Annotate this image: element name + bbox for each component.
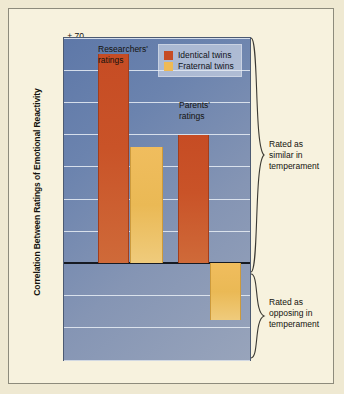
- category-label-parents-line2: ratings: [179, 111, 210, 122]
- legend-item-identical: Identical twins: [164, 50, 234, 60]
- gridline: [64, 360, 250, 361]
- annotation-similar-line1: Rated as: [269, 139, 319, 150]
- plot-area: Researchers' ratings Parents' ratings Id…: [63, 37, 251, 361]
- legend-label-identical: Identical twins: [178, 50, 231, 60]
- brace-opposing-icon: [250, 273, 266, 359]
- annotation-opposing-line2: opposing in: [269, 308, 319, 319]
- annotation-opposing-line1: Rated as: [269, 297, 319, 308]
- category-label-parents: Parents' ratings: [179, 100, 210, 122]
- annotation-similar-line3: temperament: [269, 161, 319, 172]
- annotation-similar: Rated as similar in temperament: [269, 139, 319, 172]
- legend-swatch-identical-icon: [164, 51, 173, 60]
- category-label-parents-line1: Parents': [179, 100, 210, 111]
- category-label-researchers-line1: Researchers': [98, 44, 148, 55]
- annotation-similar-line2: similar in: [269, 150, 319, 161]
- category-label-researchers: Researchers' ratings: [98, 44, 148, 66]
- legend-item-fraternal: Fraternal twins: [164, 61, 234, 71]
- chart-legend: Identical twins Fraternal twins: [158, 44, 242, 77]
- chart-figure: Correlation Between Ratings of Emotional…: [8, 8, 334, 384]
- annotation-opposing: Rated as opposing in temperament: [269, 297, 319, 330]
- y-axis-title: Correlation Between Ratings of Emotional…: [32, 42, 42, 342]
- bar: [98, 54, 129, 263]
- brace-similar-icon: [250, 37, 266, 273]
- annotation-opposing-line3: temperament: [269, 319, 319, 330]
- bar: [178, 135, 209, 264]
- gridline: [64, 38, 250, 39]
- bar: [210, 263, 241, 319]
- legend-label-fraternal: Fraternal twins: [178, 61, 234, 71]
- gridline: [64, 134, 250, 135]
- gridline: [64, 327, 250, 328]
- bar: [130, 147, 163, 263]
- category-label-researchers-line2: ratings: [98, 55, 148, 66]
- legend-swatch-fraternal-icon: [164, 62, 173, 71]
- gridline: [64, 102, 250, 103]
